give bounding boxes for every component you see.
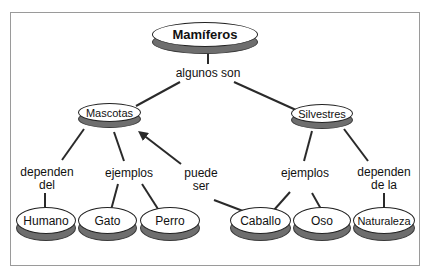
link-label-ejemplos-silvestres: ejemplos [277,167,333,180]
link-label-puede-ser: puede ser [181,167,221,193]
node-silvestres-label: Silvestres [291,104,353,123]
link-text-line2: ser [181,180,221,193]
link-label-algunos-son: algunos son [165,67,251,80]
node-mamiferos: Mamíferos [152,22,258,54]
link-text-line2: del [20,179,74,192]
node-gato: Gato [78,207,137,241]
node-gato-label: Gato [78,207,137,234]
link-text-line2: de la [356,179,412,192]
node-caballo-label: Caballo [230,207,291,234]
link-text: ejemplos [281,166,329,180]
link-label-dependen-del: dependen del [20,166,74,192]
link-label-ejemplos-mascotas: ejemplos [101,167,157,180]
node-humano-label: Humano [16,207,76,234]
node-perro-label: Perro [140,207,200,234]
node-mascotas-label: Mascotas [78,103,141,122]
node-mamiferos-label: Mamíferos [152,22,258,47]
node-silvestres: Silvestres [291,104,353,129]
node-mascotas: Mascotas [78,103,141,128]
node-naturaleza: Naturaleza [353,207,415,241]
link-text: algunos son [176,66,241,80]
node-oso-label: Oso [293,207,351,234]
node-caballo: Caballo [230,207,291,241]
node-oso: Oso [293,207,351,241]
node-naturaleza-label: Naturaleza [353,207,415,234]
node-humano: Humano [16,207,76,241]
link-text: ejemplos [105,166,153,180]
node-perro: Perro [140,207,200,241]
link-label-dependen-de-la: dependen de la [356,166,412,192]
